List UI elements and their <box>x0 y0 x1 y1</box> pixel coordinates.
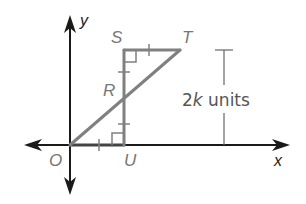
point-label-O: O <box>49 151 62 170</box>
point-label-S: S <box>111 28 123 47</box>
point-label-T: T <box>182 28 194 47</box>
dimension-label: 2k units <box>182 90 250 110</box>
figure <box>70 50 180 145</box>
x-axis <box>24 139 290 151</box>
right-angle-S-icon <box>124 50 136 62</box>
coordinate-diagram: y x O U S T R 2k units <box>0 0 306 204</box>
y-axis-label: y <box>79 12 89 29</box>
point-label-U: U <box>124 151 137 170</box>
x-axis-label: x <box>273 152 283 169</box>
y-axis <box>64 15 76 195</box>
right-angle-U-icon <box>112 133 124 145</box>
point-label-R: R <box>103 81 115 100</box>
